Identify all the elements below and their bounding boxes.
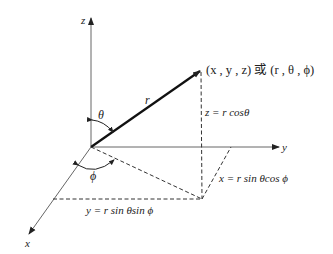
phi-label: ϕ	[90, 169, 96, 183]
x-axis	[29, 147, 91, 234]
x-equation: x = r sin θcos ϕ	[218, 172, 288, 184]
y-axis-label: y	[281, 141, 287, 153]
theta-label: θ	[98, 108, 104, 122]
x-axis-label: x	[24, 237, 30, 249]
z-axis-label: z	[80, 14, 86, 26]
xy-projection-dashed	[91, 147, 202, 199]
z-equation: z = r cosθ	[204, 106, 250, 118]
spherical-coordinates-diagram: z y x r θ ϕ (x , y , z) 或 (r , θ , ϕ) z …	[0, 0, 333, 254]
r-label: r	[145, 93, 150, 107]
point-label: (x , y , z) 或 (r , θ , ϕ)	[206, 63, 314, 77]
r-vector	[91, 71, 200, 147]
y-equation: y = r sin θsin ϕ	[85, 204, 153, 216]
z-projection-dashed	[201, 72, 202, 199]
